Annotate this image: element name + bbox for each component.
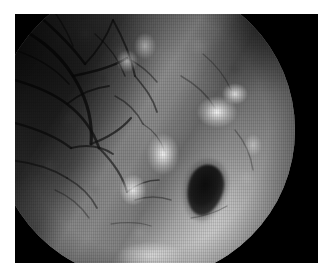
circular-vignette [15, 14, 295, 263]
endoscopic-image-viewer [15, 14, 318, 263]
circular-field-of-view [15, 14, 295, 263]
